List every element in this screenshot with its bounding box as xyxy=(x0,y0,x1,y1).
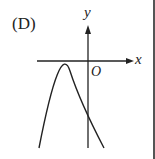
y-axis-arrow-icon xyxy=(85,25,91,34)
x-axis-label: x xyxy=(135,51,142,68)
x-axis-arrow-icon xyxy=(126,58,134,64)
y-axis xyxy=(85,25,91,148)
origin-label: O xyxy=(91,64,101,80)
option-label: (D) xyxy=(12,14,36,34)
y-axis-label: y xyxy=(84,4,91,21)
x-axis xyxy=(37,58,134,64)
